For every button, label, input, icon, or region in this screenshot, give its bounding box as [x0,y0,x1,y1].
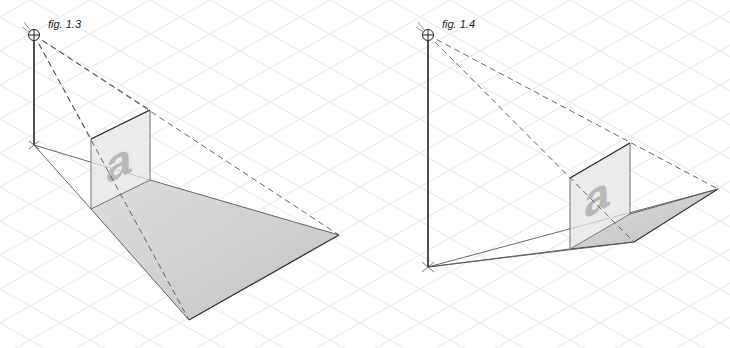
eye-point-icon [423,30,434,41]
eye-point-icon [29,30,40,41]
diagram-svg: a [0,0,730,348]
diagram-canvas: a [0,0,730,348]
figure-caption: fig. 1.3 [48,18,81,30]
figure-caption: fig. 1.4 [442,18,475,30]
